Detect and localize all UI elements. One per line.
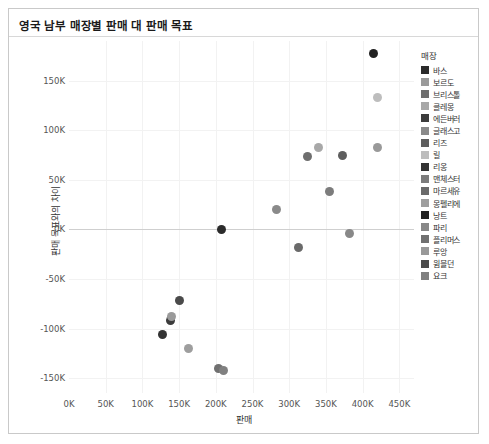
x-axis-tick-label: 400K [352,399,374,409]
gridline-vertical [142,41,143,393]
x-axis-tick-label: 350K [315,399,337,409]
scatter-point[interactable] [345,229,354,238]
legend-item[interactable]: 브리스톨 [421,88,477,100]
legend-item[interactable]: 낭트 [421,209,477,221]
legend-item[interactable]: 마르세유 [421,185,477,197]
legend-item-label: 플리머스 [433,234,460,245]
y-axis-tick-label: -150K [23,373,65,383]
gridline-vertical [216,41,217,393]
legend-title: 매장 [421,49,477,61]
scatter-point[interactable] [272,205,281,214]
gridline-vertical [253,41,254,393]
scatter-point[interactable] [217,225,226,234]
scatter-point[interactable] [219,366,228,375]
scatter-plot-area [69,41,414,393]
legend-swatch-icon [421,163,429,171]
gridline-horizontal [69,81,414,82]
page-title: 영국 남부 매장별 판매 대 판매 목표 [19,17,193,33]
scatter-point[interactable] [303,152,312,161]
legend-item[interactable]: 루앙 [421,245,477,257]
legend-item-label: 리옹 [433,161,447,172]
legend-swatch-icon [421,272,429,280]
zero-reference-line [69,229,414,230]
legend-item[interactable]: 에든버러 [421,112,477,124]
scatter-point[interactable] [294,243,303,252]
legend-item-label: 몽펠리에 [433,198,460,209]
chart-card: 영국 남부 매장별 판매 대 판매 목표 판매 목표와의 차이 판매 매장 바스… [8,8,479,434]
legend-items: 바스보르도브리스톨클레몽에든버러글래스고리즈릴리옹맨체스터마르세유몽펠리에낭트파… [421,64,477,282]
y-axis-tick-label: 50K [23,175,65,185]
scatter-point[interactable] [338,151,347,160]
legend-item-label: 루앙 [433,246,447,257]
gridline-horizontal [69,329,414,330]
legend-swatch-icon [421,90,429,98]
legend-item[interactable]: 리즈 [421,137,477,149]
gridline-vertical [399,41,400,393]
legend-item[interactable]: 요크 [421,270,477,282]
scatter-point[interactable] [175,296,184,305]
gridline-vertical [363,41,364,393]
scatter-point[interactable] [373,143,382,152]
legend-swatch-icon [421,247,429,255]
x-axis-tick-label: 450K [388,399,410,409]
legend-item[interactable]: 몽펠리에 [421,197,477,209]
x-axis-tick-label: 100K [131,399,153,409]
legend-item-label: 요크 [433,270,447,281]
y-axis-tick-label: -100K [23,324,65,334]
scatter-point[interactable] [184,344,193,353]
gridline-vertical [179,41,180,393]
legend: 매장 바스보르도브리스톨클레몽에든버러글래스고리즈릴리옹맨체스터마르세유몽펠리에… [421,49,477,282]
scatter-point[interactable] [314,143,323,152]
legend-item[interactable]: 보르도 [421,76,477,88]
legend-swatch-icon [421,223,429,231]
legend-swatch-icon [421,139,429,147]
gridline-vertical [289,41,290,393]
x-axis-tick-label: 250K [242,399,264,409]
y-axis-tick-label: 150K [23,76,65,86]
legend-swatch-icon [421,127,429,135]
legend-swatch-icon [421,102,429,110]
legend-item[interactable]: 글래스고 [421,124,477,136]
scatter-point[interactable] [369,49,378,58]
legend-swatch-icon [421,235,429,243]
legend-swatch-icon [421,114,429,122]
y-axis-tick-label: 100K [23,125,65,135]
legend-item-label: 리즈 [433,137,447,148]
legend-swatch-icon [421,211,429,219]
legend-item-label: 파리 [433,222,447,233]
gridline-vertical [106,41,107,393]
legend-item-label: 윔블던 [433,258,453,269]
x-axis-label: 판매 [9,413,478,426]
legend-item-label: 릴 [433,149,440,160]
legend-item-label: 마르세유 [433,185,460,196]
gridline-horizontal [69,279,414,280]
legend-item[interactable]: 릴 [421,149,477,161]
y-axis-tick-label: -50K [23,274,65,284]
scatter-point[interactable] [373,93,382,102]
y-axis-label: 판매 목표와의 차이 [49,186,62,256]
legend-item-label: 클레몽 [433,101,453,112]
legend-item[interactable]: 파리 [421,221,477,233]
legend-item[interactable]: 윔블던 [421,258,477,270]
y-axis-tick-label: 0K [23,224,65,234]
gridline-horizontal [69,378,414,379]
legend-item[interactable]: 리옹 [421,161,477,173]
gridline-horizontal [69,130,414,131]
legend-item[interactable]: 플리머스 [421,233,477,245]
scatter-point[interactable] [167,312,176,321]
legend-item-label: 브리스톨 [433,89,460,100]
x-axis-tick-label: 300K [278,399,300,409]
legend-item[interactable]: 맨체스터 [421,173,477,185]
legend-swatch-icon [421,187,429,195]
x-axis-tick-label: 200K [205,399,227,409]
legend-item[interactable]: 바스 [421,64,477,76]
x-axis-tick-label: 0K [64,399,75,409]
gridline-vertical [326,41,327,393]
legend-swatch-icon [421,260,429,268]
scatter-point[interactable] [325,187,334,196]
scatter-point[interactable] [158,330,167,339]
x-axis-tick-label: 50K [97,399,113,409]
legend-item-label: 맨체스터 [433,173,460,184]
legend-item[interactable]: 클레몽 [421,100,477,112]
gridline-horizontal [69,180,414,181]
